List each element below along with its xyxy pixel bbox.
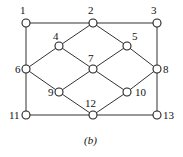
- node-1: [22, 19, 30, 27]
- node-label-13: 13: [163, 109, 175, 121]
- nodes-group: 12345678910111213: [9, 4, 175, 121]
- figure-caption: (b): [84, 134, 97, 147]
- node-8: [153, 65, 161, 73]
- node-9: [55, 88, 63, 96]
- node-label-2: 2: [88, 4, 94, 16]
- edge-7-10: [93, 69, 127, 92]
- node-5: [123, 42, 131, 50]
- node-12: [89, 111, 97, 119]
- node-13: [153, 111, 161, 119]
- node-label-9: 9: [48, 86, 54, 98]
- node-label-6: 6: [15, 63, 21, 75]
- node-label-7: 7: [88, 52, 94, 64]
- node-3: [153, 19, 161, 27]
- node-label-3: 3: [151, 4, 157, 16]
- node-7: [89, 65, 97, 73]
- edge-6-9: [26, 69, 59, 92]
- edge-5-8: [127, 46, 157, 69]
- node-10: [123, 88, 131, 96]
- graph-diagram: 12345678910111213 (b): [0, 0, 183, 157]
- node-11: [22, 111, 30, 119]
- edge-2-5: [93, 23, 127, 46]
- edge-5-7: [93, 46, 127, 69]
- node-label-11: 11: [9, 109, 20, 121]
- node-label-1: 1: [20, 4, 26, 16]
- edge-10-12: [93, 92, 127, 115]
- edge-4-6: [26, 46, 59, 69]
- node-4: [55, 42, 63, 50]
- node-label-4: 4: [53, 30, 59, 42]
- node-6: [22, 65, 30, 73]
- edge-2-4: [59, 23, 93, 46]
- node-label-8: 8: [163, 63, 169, 75]
- edge-7-9: [59, 69, 93, 92]
- node-2: [89, 19, 97, 27]
- node-label-10: 10: [135, 86, 147, 98]
- node-label-12: 12: [85, 97, 96, 109]
- node-label-5: 5: [132, 30, 138, 42]
